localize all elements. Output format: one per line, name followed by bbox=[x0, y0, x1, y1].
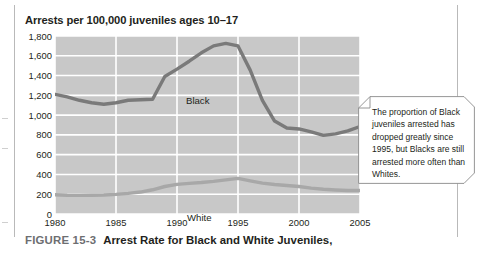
line-chart-svg bbox=[55, 36, 360, 214]
x-axis-tick-label: 1980 bbox=[45, 218, 66, 227]
series-label-black: Black bbox=[186, 95, 209, 106]
x-axis-tick-label: 2000 bbox=[289, 218, 310, 227]
y-axis-tick-label: 1,200 bbox=[16, 91, 52, 100]
figure-caption-text: Arrest Rate for Black and White Juvenile… bbox=[103, 234, 332, 246]
chart-title: Arrests per 100,000 juveniles ages 10–17 bbox=[25, 14, 238, 26]
y-axis-tick-label: 1,400 bbox=[16, 71, 52, 80]
x-axis-tick-label: 1985 bbox=[106, 218, 127, 227]
callout-text: The proportion of Black juveniles arrest… bbox=[372, 106, 466, 180]
x-axis-tick-label: 1990 bbox=[167, 218, 188, 227]
y-axis-tick-label: 400 bbox=[16, 170, 52, 179]
x-axis-tick-label: 2005 bbox=[350, 218, 371, 227]
y-axis-tick-label: 800 bbox=[16, 130, 52, 139]
series-label-white: White bbox=[187, 212, 212, 223]
y-axis-tick-label: 1,800 bbox=[16, 32, 52, 41]
y-axis-tick-label: 200 bbox=[16, 190, 52, 199]
plot-area: Black White bbox=[55, 36, 360, 214]
y-axis-tick-label: 600 bbox=[16, 150, 52, 159]
y-axis: 02004006008001,0001,2001,4001,6001,800 bbox=[16, 36, 52, 214]
x-axis-tick-label: 1995 bbox=[228, 218, 249, 227]
figure-caption-number: FIGURE 15-3 bbox=[25, 234, 96, 246]
series-line-black bbox=[55, 43, 360, 135]
figure-15-3: Arrests per 100,000 juveniles ages 10–17… bbox=[0, 0, 487, 253]
y-axis-tick-label: 1,000 bbox=[16, 111, 52, 120]
y-axis-tick-label: 1,600 bbox=[16, 51, 52, 60]
figure-caption: FIGURE 15-3Arrest Rate for Black and Whi… bbox=[25, 234, 332, 246]
series-line-white bbox=[55, 178, 360, 195]
callout-annotation: The proportion of Black juveniles arrest… bbox=[358, 96, 475, 184]
